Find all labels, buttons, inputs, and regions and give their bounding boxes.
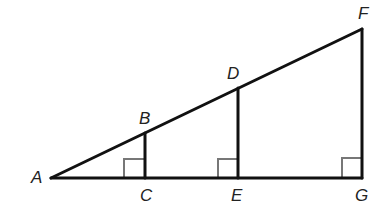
point-label-f: F [358, 5, 368, 22]
right-angle-mark-e [218, 159, 238, 178]
diagram-canvas: A B C D E F G [0, 0, 387, 216]
point-label-c: C [140, 187, 152, 204]
point-label-a: A [31, 169, 42, 186]
point-label-d: D [227, 65, 239, 82]
right-angle-mark-g [342, 158, 362, 178]
segment-af [51, 29, 362, 178]
point-label-g: G [355, 187, 368, 204]
point-label-b: B [139, 110, 150, 127]
point-label-e: E [231, 187, 242, 204]
triangle-figure [0, 0, 387, 216]
right-angle-mark-c [124, 159, 145, 178]
